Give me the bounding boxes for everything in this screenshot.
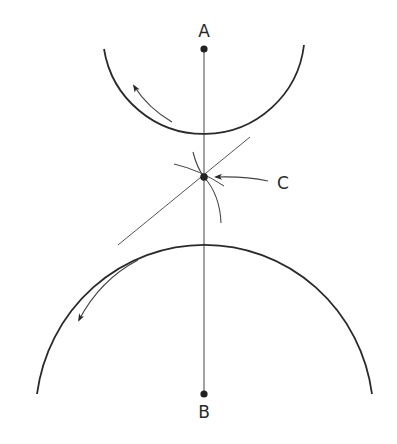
label-b: B [198, 402, 210, 422]
label-a: A [198, 21, 210, 41]
point-a [200, 45, 207, 52]
gear-diagram: A B C [0, 0, 397, 444]
lower-tooth-profile [204, 177, 221, 223]
point-b [200, 390, 207, 397]
label-c: C [277, 173, 289, 193]
c-pointer-arrow [216, 177, 268, 181]
point-c [200, 173, 208, 181]
lower-rotation-arrow [79, 260, 138, 320]
crossing-arc [174, 164, 224, 186]
upper-rotation-arrow [134, 86, 172, 122]
line-of-action [118, 137, 250, 245]
